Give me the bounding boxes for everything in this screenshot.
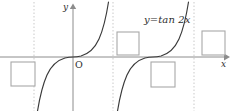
answer-box-4[interactable]	[202, 31, 225, 55]
answer-box-1[interactable]	[11, 62, 35, 86]
y-axis-label: y	[63, 3, 68, 12]
y-axis-arrow-icon	[70, 4, 76, 10]
graph-canvas	[0, 0, 232, 111]
equation-label: y=tan 2x	[144, 15, 190, 25]
answer-box-group	[11, 31, 225, 87]
answer-box-2[interactable]	[117, 32, 139, 55]
origin-label: O	[75, 60, 83, 70]
tangent-graph-figure: y x O y=tan 2x	[0, 0, 232, 111]
x-axis-label: x	[221, 60, 226, 69]
answer-box-3[interactable]	[151, 62, 175, 87]
